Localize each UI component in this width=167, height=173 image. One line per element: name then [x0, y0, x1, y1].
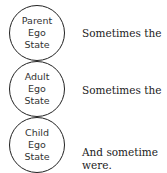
adult-ego-state-circle: Adult Ego State	[9, 61, 65, 117]
circle-label-line: Ego	[28, 139, 46, 151]
circle-label-line: Ego	[28, 83, 46, 95]
circle-label-line: Adult	[25, 71, 50, 83]
circle-label-line: State	[24, 95, 49, 107]
parent-ego-state-circle: Parent Ego State	[9, 5, 65, 61]
circle-label-line: Parent	[22, 15, 52, 27]
circle-label-line: Child	[25, 127, 49, 139]
adult-caption: Sometimes the	[82, 84, 161, 96]
circle-label-line: State	[24, 39, 49, 51]
circle-label-line: State	[24, 151, 49, 163]
parent-caption: Sometimes the	[82, 27, 161, 39]
circle-label-line: Ego	[28, 27, 46, 39]
child-caption-continued: were.	[82, 159, 112, 171]
child-ego-state-circle: Child Ego State	[9, 117, 65, 173]
child-caption: And sometime	[82, 146, 158, 158]
